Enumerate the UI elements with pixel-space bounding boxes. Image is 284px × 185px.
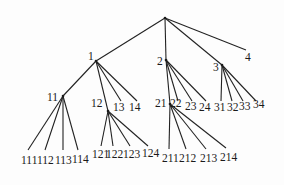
node-label-111: 111	[21, 155, 37, 167]
node-label-31: 31	[214, 102, 226, 114]
node-label-114: 114	[72, 154, 89, 166]
edge-root-4	[165, 18, 246, 50]
edge-12-121	[101, 111, 108, 146]
node-label-4: 4	[245, 52, 251, 64]
node-label-32: 32	[227, 102, 239, 114]
edge-12-124	[108, 111, 148, 146]
node-label-11: 11	[47, 92, 58, 104]
node-label-24: 24	[199, 102, 211, 114]
edge-root-2	[165, 18, 166, 60]
edge-12-122	[108, 111, 113, 146]
edge-2-23	[166, 60, 192, 101]
node-point-1	[95, 60, 98, 63]
node-point-2	[165, 59, 168, 62]
node-label-21: 21	[155, 98, 167, 110]
node-label-213: 213	[200, 153, 217, 165]
node-label-112: 112	[37, 155, 54, 167]
edge-root-3	[165, 18, 222, 65]
node-label-1: 1	[88, 51, 94, 63]
node-point-root	[164, 17, 167, 20]
edge-11-111	[28, 96, 63, 150]
edge-3-33	[222, 65, 243, 101]
node-label-124: 124	[142, 148, 159, 160]
tree-diagram: 1234111213142122232431323334111112113114…	[0, 0, 284, 185]
node-label-12: 12	[91, 98, 103, 110]
node-label-3: 3	[213, 62, 219, 74]
node-label-113: 113	[55, 155, 72, 167]
edge-11-114	[63, 96, 78, 150]
node-label-33: 33	[239, 101, 251, 113]
node-label-214: 214	[220, 152, 237, 164]
edge-11-112	[45, 96, 63, 150]
node-label-123: 123	[123, 149, 140, 161]
edge-21-211	[169, 104, 170, 149]
node-label-13: 13	[113, 102, 125, 114]
node-label-34: 34	[253, 99, 265, 111]
node-point-3	[221, 64, 224, 67]
node-label-122: 122	[106, 149, 123, 161]
node-label-2: 2	[157, 56, 163, 68]
edge-12-123	[108, 111, 130, 146]
node-point-11	[62, 95, 65, 98]
node-label-23: 23	[185, 101, 197, 113]
node-label-14: 14	[129, 102, 141, 114]
node-label-212: 212	[179, 153, 196, 165]
node-point-12	[107, 110, 110, 113]
edge-3-31	[221, 65, 222, 101]
node-label-211: 211	[162, 153, 179, 165]
edge-1-11	[63, 61, 96, 96]
edge-root-1	[96, 18, 165, 61]
edge-1-14	[96, 61, 137, 101]
node-label-22: 22	[170, 98, 182, 110]
